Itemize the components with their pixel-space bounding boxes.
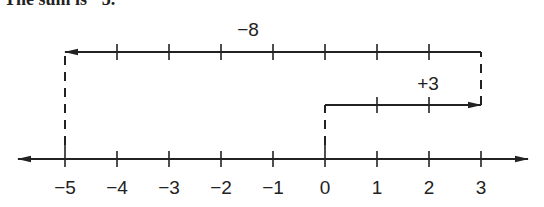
tick-label: −3	[158, 177, 180, 198]
move-label: −8	[237, 19, 259, 40]
plus-three-arrow: +3	[325, 73, 481, 145]
tick-label: 0	[320, 177, 331, 198]
number-line-ticks	[65, 145, 481, 167]
tick-label: 1	[372, 177, 383, 198]
tick-label: −1	[262, 177, 284, 198]
tick-label: −2	[210, 177, 232, 198]
tick-label: −5	[54, 177, 76, 198]
tick-label: 3	[476, 177, 487, 198]
move-label: +3	[417, 73, 439, 94]
tick-label: −4	[106, 177, 128, 198]
tick-label: 2	[424, 177, 435, 198]
tick-labels: −5−4−3−2−10123	[54, 177, 486, 198]
number-line-diagram: −5−4−3−2−10123 +3 −8	[0, 0, 544, 207]
